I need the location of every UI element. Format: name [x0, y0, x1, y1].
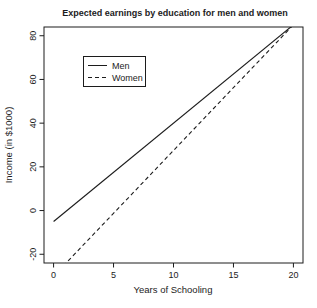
plot-area — [44, 27, 303, 263]
chart-title: Expected earnings by education for men a… — [62, 8, 288, 18]
y-tick-label: 40 — [28, 118, 38, 128]
legend-label-men: Men — [112, 61, 130, 71]
x-tick-label: 15 — [228, 270, 238, 280]
legend: Men Women — [84, 57, 146, 87]
legend-label-women: Women — [112, 73, 143, 83]
x-tick-label: 10 — [168, 270, 178, 280]
y-tick-label: 0 — [28, 208, 38, 213]
chart-figure: Expected earnings by education for men a… — [0, 0, 317, 308]
y-tick-label: 60 — [28, 74, 38, 84]
series-lines — [54, 25, 294, 276]
x-axis-ticks: 05101520 — [51, 263, 298, 280]
x-tick-label: 0 — [51, 270, 56, 280]
y-axis-ticks: -20020406080 — [28, 31, 44, 261]
y-tick-label: -20 — [28, 248, 38, 261]
chart-svg: Expected earnings by education for men a… — [0, 0, 317, 308]
x-tick-label: 20 — [288, 270, 298, 280]
series-line-men — [54, 25, 294, 222]
x-tick-label: 5 — [111, 270, 116, 280]
y-tick-label: 20 — [28, 162, 38, 172]
y-tick-label: 80 — [28, 31, 38, 41]
series-line-women — [54, 25, 294, 276]
x-axis-label: Years of Schooling — [134, 284, 213, 295]
y-axis-label: Income (in $1000) — [3, 107, 14, 184]
